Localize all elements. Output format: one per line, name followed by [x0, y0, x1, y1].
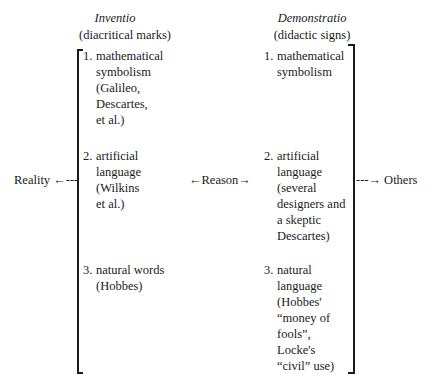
- item-number: 1.: [264, 48, 273, 64]
- item-line: language: [96, 164, 141, 180]
- inventio-item-3: 3. natural words (Hobbes): [83, 262, 164, 294]
- item-line: (several: [277, 180, 345, 196]
- item-number: 3.: [264, 262, 273, 278]
- item-line: (Galileo,: [96, 80, 163, 96]
- item-line: artificial: [277, 148, 345, 164]
- item-line: mathematical: [277, 48, 344, 64]
- item-line: symbolism: [96, 64, 163, 80]
- others-connector: ---→ Others: [356, 173, 417, 188]
- item-line: et al.): [96, 112, 163, 128]
- demonstratio-subtitle: (didactic signs): [264, 28, 360, 43]
- item-line: “money of: [277, 310, 334, 326]
- reason-connector: ←Reason→: [189, 173, 251, 188]
- inventio-item-2: 2. artificial language (Wilkins et al.): [83, 148, 141, 212]
- item-line: fools”,: [277, 326, 334, 342]
- item-line: (Hobbes': [277, 294, 334, 310]
- item-line: language: [277, 278, 334, 294]
- item-line: Descartes): [277, 228, 345, 244]
- item-line: “civil” use): [277, 358, 334, 374]
- item-line: a skeptic: [277, 212, 345, 228]
- item-line: designers and: [277, 196, 345, 212]
- demonstratio-item-2: 2. artificial language (several designer…: [264, 148, 345, 244]
- item-line: Locke's: [277, 342, 334, 358]
- inventio-title: Inventio: [70, 11, 160, 26]
- inventio-item-1: 1. mathematical symbolism (Galileo, Desc…: [83, 48, 163, 128]
- reality-connector: Reality ←---: [14, 173, 78, 188]
- item-line: symbolism: [277, 64, 344, 80]
- item-line: natural: [277, 262, 334, 278]
- item-line: Descartes,: [96, 96, 163, 112]
- inventio-subtitle: (diacritical marks): [70, 28, 180, 43]
- item-number: 1.: [83, 48, 92, 64]
- item-line: artificial: [96, 148, 141, 164]
- item-line: language: [277, 164, 345, 180]
- item-number: 3.: [83, 262, 92, 278]
- item-line: mathematical: [96, 48, 163, 64]
- item-line: (Wilkins: [96, 180, 141, 196]
- item-line: et al.): [96, 196, 141, 212]
- item-line: natural words: [96, 262, 164, 278]
- item-number: 2.: [83, 148, 92, 164]
- item-line: (Hobbes): [96, 278, 164, 294]
- demonstratio-title: Demonstratio: [264, 11, 360, 26]
- demonstratio-item-1: 1. mathematical symbolism: [264, 48, 344, 80]
- demonstratio-item-3: 3. natural language (Hobbes' “money of f…: [264, 262, 334, 374]
- item-number: 2.: [264, 148, 273, 164]
